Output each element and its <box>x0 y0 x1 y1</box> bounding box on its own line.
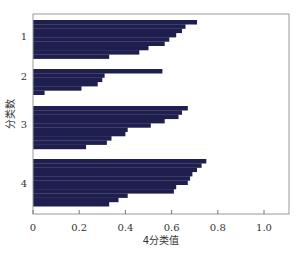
bar <box>33 50 139 55</box>
bar <box>33 189 174 194</box>
bar <box>33 91 45 96</box>
bar <box>33 163 202 168</box>
bar <box>33 33 176 38</box>
bar <box>33 82 98 87</box>
bar <box>33 73 105 78</box>
bars <box>33 20 206 207</box>
bar <box>33 193 128 198</box>
x-axis-title: 4分类值 <box>143 234 179 246</box>
bar-chart: 00.20.40.60.81.0 1234 4分类值 分类数 <box>0 0 300 258</box>
bar <box>33 110 182 115</box>
y-axis-title: 分类数 <box>4 99 16 129</box>
bar <box>33 119 165 124</box>
bar <box>33 132 125 137</box>
bar <box>33 46 149 51</box>
bar <box>33 140 107 145</box>
x-tick-label: 0.4 <box>117 222 133 233</box>
y-tick-label: 2 <box>21 71 27 82</box>
bar <box>33 198 119 203</box>
bar <box>33 86 82 91</box>
bar <box>33 115 179 120</box>
bar <box>33 159 206 164</box>
bar <box>33 176 190 181</box>
bar <box>33 145 86 150</box>
x-tick-label: 0.2 <box>71 222 87 233</box>
x-tick-label: 1.0 <box>256 222 272 233</box>
y-tick-label: 3 <box>21 119 27 130</box>
x-axis: 00.20.40.60.81.0 <box>30 210 272 233</box>
bar <box>33 37 169 42</box>
bar <box>33 42 165 47</box>
x-tick-label: 0.6 <box>164 222 180 233</box>
bar <box>33 78 102 83</box>
bar <box>33 136 112 141</box>
bar <box>33 181 188 186</box>
bar <box>33 168 197 173</box>
y-tick-label: 1 <box>21 31 27 42</box>
bar <box>33 106 188 111</box>
x-tick-label: 0 <box>30 222 36 233</box>
bar <box>33 202 109 207</box>
bar <box>33 172 192 177</box>
bar <box>33 185 176 190</box>
bar <box>33 123 151 128</box>
y-axis: 1234 <box>21 31 27 189</box>
y-tick-label: 4 <box>21 178 27 189</box>
bar <box>33 29 182 33</box>
bar <box>33 128 128 133</box>
x-tick-label: 0.8 <box>210 222 226 233</box>
bar <box>33 24 186 29</box>
bar <box>33 69 162 74</box>
bar <box>33 54 109 59</box>
bar <box>33 20 197 25</box>
